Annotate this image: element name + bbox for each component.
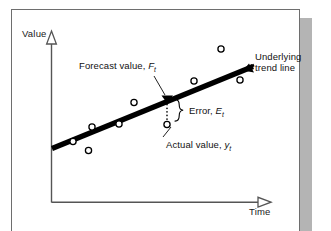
trend-annotation-line-1: Underlying xyxy=(255,51,301,62)
data-point xyxy=(85,147,91,153)
x-axis-label: Time xyxy=(249,206,271,217)
forecast-subscript: t xyxy=(154,66,156,73)
data-point xyxy=(131,99,137,105)
data-point xyxy=(116,121,122,127)
forecast-annotation-text: Forecast value, xyxy=(79,60,148,71)
forecast-value-annotation: Forecast value, Ft xyxy=(79,60,156,75)
error-subscript: t xyxy=(222,111,224,118)
error-brace xyxy=(175,100,183,122)
data-point-actual xyxy=(164,121,170,127)
data-point xyxy=(89,124,95,130)
data-point xyxy=(191,78,197,84)
forecast-leader-line xyxy=(154,76,165,95)
trend-annotation-line-2: trend line xyxy=(255,62,301,73)
y-axis-label: Value xyxy=(22,28,47,39)
trend-line-annotation: Underlying trend line xyxy=(255,51,301,73)
plot-canvas xyxy=(0,0,331,231)
error-annotation: Error, Et xyxy=(189,105,224,120)
forecast-error-figure: Value Time Forecast value, Ft Error, Et … xyxy=(0,0,331,231)
data-point xyxy=(70,138,76,144)
actual-value-annotation: Actual value, yt xyxy=(166,139,231,154)
actual-subscript: t xyxy=(229,145,231,152)
data-point xyxy=(237,77,243,83)
actual-leader-line xyxy=(163,127,171,137)
error-annotation-text: Error, xyxy=(189,105,216,116)
actual-annotation-text: Actual value, xyxy=(166,139,224,150)
y-axis-arrow-icon xyxy=(47,31,57,44)
data-point xyxy=(218,46,224,52)
